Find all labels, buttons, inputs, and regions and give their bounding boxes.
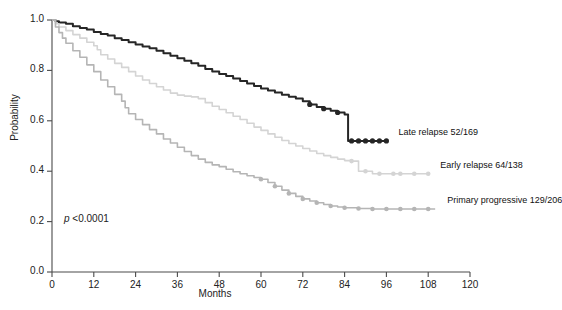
censor-marker (273, 184, 278, 189)
survival-curve (52, 20, 435, 209)
y-tick-label: 0.2 (12, 215, 44, 226)
censor-marker (426, 207, 431, 212)
censor-marker (349, 159, 354, 164)
censor-marker (398, 207, 403, 212)
censor-marker (301, 197, 306, 202)
legend-item-late-relapse: Late relapse 52/169 (398, 127, 478, 137)
y-tick-label: 0.8 (12, 63, 44, 74)
p-value-annotation: p <0.0001 (64, 213, 109, 224)
censor-marker (412, 171, 417, 176)
censor-marker (412, 207, 417, 212)
censor-marker (259, 177, 264, 182)
censor-marker (349, 138, 354, 143)
p-value-text: <0.0001 (70, 213, 109, 224)
censor-marker (426, 171, 431, 176)
x-tick-label: 120 (455, 279, 485, 290)
censor-marker (370, 207, 375, 212)
censor-marker (356, 206, 361, 211)
censor-marker (384, 207, 389, 212)
censor-marker (363, 169, 368, 174)
censor-marker (314, 200, 319, 205)
censor-marker (342, 205, 347, 210)
censor-marker (356, 138, 361, 143)
censor-marker (377, 138, 382, 143)
censor-marker (398, 171, 403, 176)
x-tick-label: 0 (37, 279, 67, 290)
y-tick-label: 0.4 (12, 164, 44, 175)
curve-layer (52, 20, 435, 211)
legend-item-early-relapse: Early relapse 64/138 (440, 160, 523, 170)
x-tick-label: 48 (204, 279, 234, 290)
censor-marker (391, 171, 396, 176)
x-tick-label: 24 (121, 279, 151, 290)
y-tick-label: 1.0 (12, 13, 44, 24)
x-tick-label: 36 (162, 279, 192, 290)
censor-marker (287, 191, 292, 196)
x-tick-label: 84 (330, 279, 360, 290)
x-tick-label: 108 (413, 279, 443, 290)
y-tick-label: 0.0 (12, 265, 44, 276)
axis-layer (52, 20, 470, 272)
censor-marker (321, 106, 326, 111)
x-tick-label: 60 (246, 279, 276, 290)
censor-marker (335, 110, 340, 115)
censor-marker (377, 171, 382, 176)
censor-marker (363, 138, 368, 143)
x-tick-label: 96 (371, 279, 401, 290)
x-tick-label: 12 (79, 279, 109, 290)
censor-marker (307, 102, 312, 107)
censor-marker (384, 138, 389, 143)
y-tick-label: 0.6 (12, 114, 44, 125)
censor-marker (328, 204, 333, 209)
x-tick-label: 72 (288, 279, 318, 290)
censor-marker (370, 138, 375, 143)
legend-item-primary-progressive: Primary progressive 129/206 (447, 195, 562, 205)
survival-curve (52, 20, 428, 174)
